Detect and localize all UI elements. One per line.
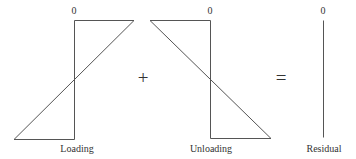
plus-operator: + xyxy=(138,67,149,88)
unloading-caption: Unloading xyxy=(190,143,232,154)
residual-stress-diagram: 0 Loading + 0 Unloading = 0 Residual xyxy=(0,0,356,159)
equals-operator: = xyxy=(276,67,287,88)
loading-caption: Loading xyxy=(60,143,93,154)
unloading-panel: 0 Unloading xyxy=(150,5,271,154)
loading-zero-label: 0 xyxy=(72,5,77,16)
residual-caption: Residual xyxy=(307,143,342,154)
unloading-zero-label: 0 xyxy=(208,5,213,16)
loading-panel: 0 Loading xyxy=(14,5,134,154)
residual-zero-label: 0 xyxy=(321,5,326,16)
residual-panel: 0 Residual xyxy=(307,5,342,154)
